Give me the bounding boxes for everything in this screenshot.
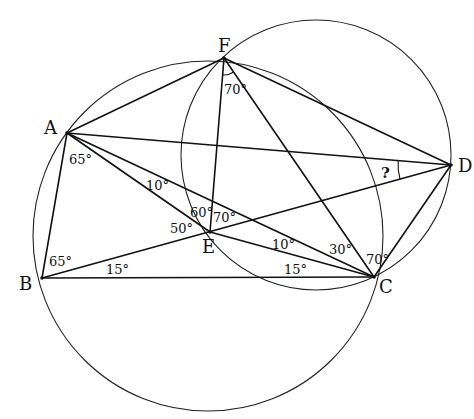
label-c: C [379,276,393,297]
angle-label-b-65: 65° [49,254,72,269]
label-a: A [43,117,58,138]
angle-label-c-15: 15° [284,262,307,277]
angle-label-a-65: 65° [69,152,92,167]
angle-label-a-10: 10° [146,178,169,193]
point-d-dot [449,163,453,167]
angle-label-c-30: 30° [329,242,352,257]
label-b: B [19,273,32,294]
point-e-dot [208,230,212,234]
angle-arc-f [223,72,234,75]
point-f-dot [222,56,226,60]
angle-label-c-10: 10° [272,237,295,252]
point-b-dot [40,276,44,280]
segment-ae [67,133,210,232]
angle-label-c-70: 70° [366,252,389,267]
angle-label-b-15: 15° [106,262,129,277]
label-e: E [202,236,215,257]
point-a-dot [65,131,69,135]
angle-label-f-70: 70° [224,82,247,97]
angle-label-e-50: 50° [170,221,193,236]
angle-label-e-70: 70° [213,210,236,225]
segment-af [67,58,224,133]
angle-arc-d [398,161,400,179]
point-c-dot [372,275,376,279]
label-f: F [218,35,231,56]
label-d: D [458,155,472,176]
angle-label-d-unknown: ? [381,164,390,182]
geometry-diagram: A B C D E F 65° 10° 65° 15° 50° 60° 70° … [0,0,474,419]
angle-label-e-60: 60° [190,205,213,220]
segment-bc [42,277,374,278]
